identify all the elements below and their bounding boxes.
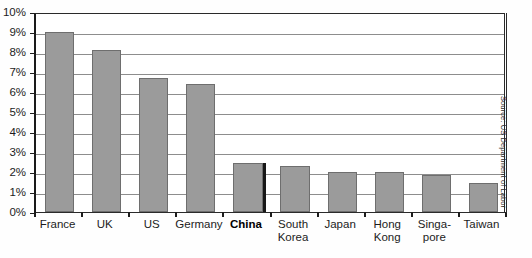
bar [375, 172, 404, 212]
plot-area [34, 13, 505, 213]
x-tick-mark [364, 212, 366, 217]
bar [469, 183, 498, 212]
x-tick-label: Japan [317, 218, 364, 231]
bar [233, 163, 262, 212]
x-tick-label: UK [81, 218, 128, 231]
y-tick-label: 10% [3, 7, 26, 19]
x-tick-mark [270, 212, 272, 217]
y-tick-label: 6% [9, 87, 26, 99]
y-axis-labels: 0%1%2%3%4%5%6%7%8%9%10% [0, 8, 30, 213]
bar [422, 175, 451, 212]
bar-chart: 0%1%2%3%4%5%6%7%8%9%10% FranceUKUSGerman… [0, 0, 532, 258]
y-tick-label: 0% [9, 207, 26, 219]
x-tick-mark [458, 212, 460, 217]
x-tick-label: France [34, 218, 81, 231]
x-tick-mark [317, 212, 319, 217]
x-tick-mark [411, 212, 413, 217]
bar [186, 84, 215, 212]
y-tick-label: 4% [9, 127, 26, 139]
y-tick-label: 9% [9, 27, 26, 39]
bar [139, 78, 168, 212]
bar [328, 172, 357, 212]
y-tick-label: 5% [9, 107, 26, 119]
x-tick-mark [175, 212, 177, 217]
x-tick-mark [128, 212, 130, 217]
x-tick-label: Hong Kong [364, 218, 411, 244]
bar-series [36, 14, 504, 212]
x-tick-label: Germany [175, 218, 222, 231]
bar [45, 32, 74, 212]
x-axis-labels: FranceUKUSGermanyChinaSouth KoreaJapanHo… [34, 218, 505, 258]
x-tick-label: China [222, 218, 269, 231]
y-tick-label: 3% [9, 147, 26, 159]
x-tick-label: US [128, 218, 175, 231]
x-tick-mark [222, 212, 224, 217]
x-tick-mark [34, 212, 36, 217]
bar [280, 166, 309, 212]
x-tick-mark [81, 212, 83, 217]
bar [92, 50, 121, 212]
y-tick-label: 2% [9, 167, 26, 179]
x-tick-label: Singa- pore [411, 218, 458, 244]
x-tick-label: South Korea [270, 218, 317, 244]
x-tick-label: Taiwan [458, 218, 505, 231]
y-tick-label: 1% [9, 187, 26, 199]
y-tick-label: 7% [9, 67, 26, 79]
chart-title [0, 0, 532, 4]
y-tick-label: 8% [9, 47, 26, 59]
source-note: Source: US Department of Labor [499, 96, 508, 208]
